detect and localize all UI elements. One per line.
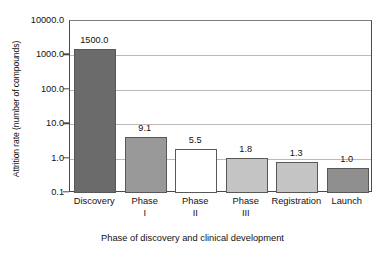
bar [226,158,268,193]
bar-value-label: 5.5 [189,135,202,145]
bar-value-label: 1.0 [340,154,353,164]
x-axis-category-label-line1: Discovery [74,196,115,206]
x-axis-category-label: Registration [271,196,321,208]
bar [74,49,116,193]
bar-value-label: 9.1 [138,123,151,133]
y-axis-tick-label: 10000.0 [31,15,64,25]
bar [125,137,167,193]
x-axis-category-label-line1: Phase [182,196,208,206]
y-axis-title: Attrition rate (number of compounds) [11,19,21,199]
x-axis-category-label-line2: III [233,208,259,220]
bar [276,162,318,193]
x-axis-category-label: Discovery [74,196,115,208]
x-axis-category-label-line2: I [132,208,158,220]
y-axis-tick-label: 100.0 [41,84,64,94]
y-axis-tick-label: 10.0 [46,118,64,128]
x-axis-category-label: Launch [331,196,362,208]
x-axis-category-label-line1: Launch [331,196,362,206]
bar-value-label: 1.3 [290,148,303,158]
x-axis-category-label-line1: Phase [132,196,158,206]
bar [327,168,369,193]
bar-value-label: 1500.0 [80,35,108,45]
x-axis-category-label: PhaseI [132,196,158,219]
chart-figure: Attrition rate (number of compounds) 0.1… [0,0,385,255]
plot-area [69,20,372,192]
x-axis-title: Phase of discovery and clinical developm… [0,233,385,243]
x-axis-category-label-line2: II [182,208,208,220]
y-axis-tick-label: 1000.0 [36,49,64,59]
x-axis-category-label-line1: Registration [271,196,321,206]
x-axis-category-label-line1: Phase [233,196,259,206]
bar [175,149,217,193]
x-axis-category-label: PhaseII [182,196,208,219]
x-axis-category-label: PhaseIII [233,196,259,219]
bar-value-label: 1.8 [239,144,252,154]
